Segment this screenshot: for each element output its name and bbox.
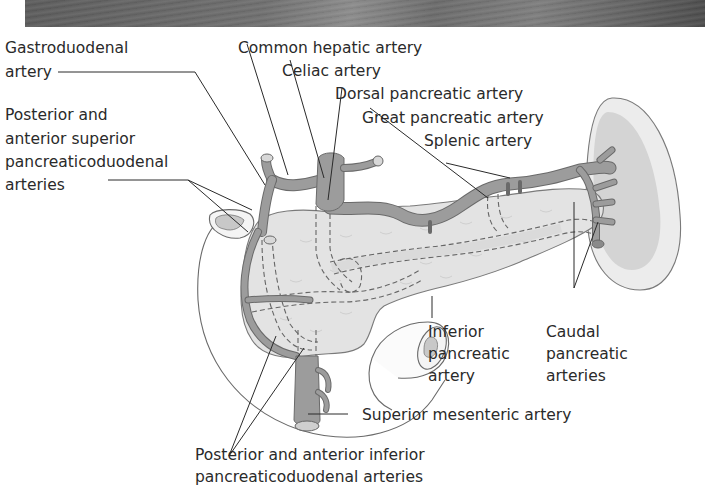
label-superior-mesenteric-artery: Superior mesenteric artery xyxy=(362,406,571,424)
label-inferior-pancreatic-artery-line3: artery xyxy=(428,367,475,385)
label-gastroduodenal-artery: Gastroduodenal xyxy=(5,39,128,57)
spleen xyxy=(586,98,680,290)
label-posterior-anterior-inferior-pd-line2: pancreaticoduodenal arteries xyxy=(195,468,423,486)
label-dorsal-pancreatic-artery: Dorsal pancreatic artery xyxy=(335,85,523,103)
label-great-pancreatic-artery: Great pancreatic artery xyxy=(362,109,544,127)
label-caudal-pancreatic-arteries-line3: arteries xyxy=(546,367,606,385)
label-gastroduodenal-artery-line2: artery xyxy=(5,63,52,81)
label-caudal-pancreatic-arteries-line2: pancreatic xyxy=(546,345,628,363)
label-posterior-anterior-superior-pd: Posterior and xyxy=(5,106,108,124)
label-celiac-artery: Celiac artery xyxy=(282,62,381,80)
pancreas-arterial-supply-diagram: Gastroduodenal artery Common hepatic art… xyxy=(0,0,705,502)
label-posterior-anterior-superior-pd-line2: anterior superior xyxy=(5,130,136,148)
label-inferior-pancreatic-artery: Inferior xyxy=(428,323,485,341)
label-posterior-anterior-inferior-pd: Posterior and anterior inferior xyxy=(195,446,425,464)
label-posterior-anterior-superior-pd-line4: arteries xyxy=(5,176,65,194)
label-common-hepatic-artery: Common hepatic artery xyxy=(238,39,422,57)
label-splenic-artery: Splenic artery xyxy=(424,132,532,150)
label-posterior-anterior-superior-pd-line3: pancreaticoduodenal xyxy=(5,153,168,171)
label-inferior-pancreatic-artery-line2: pancreatic xyxy=(428,345,510,363)
label-caudal-pancreatic-arteries: Caudal xyxy=(546,323,600,341)
